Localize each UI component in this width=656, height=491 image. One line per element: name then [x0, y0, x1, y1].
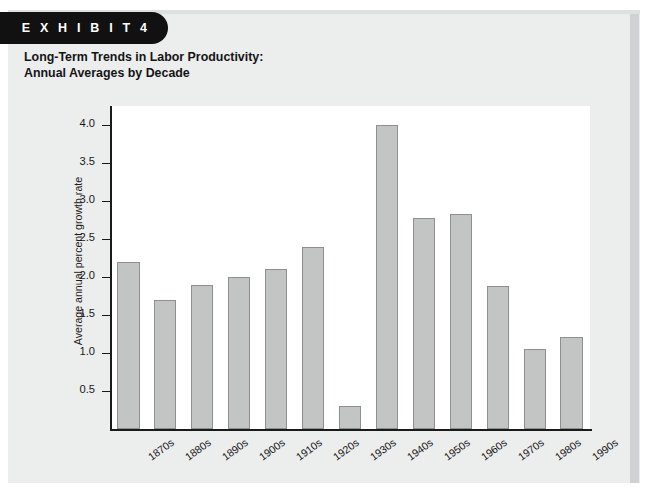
y-axis-tick-label: 2.0 [79, 269, 102, 281]
exhibit-banner: E X H I B I T 4 [0, 12, 168, 44]
y-axis-tick-label: 0.5 [79, 383, 102, 395]
x-axis-label-1990s: 1990s [589, 436, 619, 463]
y-axis-tick-label: 3.5 [79, 155, 102, 167]
y-axis-line [110, 106, 112, 430]
y-axis-tick: 1.0 [102, 353, 110, 354]
x-axis-label-1960s: 1960s [478, 436, 508, 463]
x-axis-label-1920s: 1920s [331, 436, 361, 463]
y-axis-tick: 2.0 [102, 277, 110, 278]
bar-1990s [560, 337, 582, 429]
exhibit-banner-label: E X H I B I T 4 [18, 21, 151, 35]
x-axis-label-1970s: 1970s [515, 436, 545, 463]
y-axis-tick: 0.5 [102, 391, 110, 392]
plot-background [110, 106, 590, 429]
bar-1960s [450, 214, 472, 429]
page-title: Long-Term Trends in Labor Productivity: … [24, 50, 584, 81]
bar-1930s [339, 406, 361, 429]
y-axis-tick-label: 2.5 [79, 231, 102, 243]
x-axis-label-1880s: 1880s [183, 436, 213, 463]
bar-1880s [154, 300, 176, 429]
x-axis-label-1950s: 1950s [441, 436, 471, 463]
bar-1900s [228, 277, 250, 429]
bar-1950s [413, 218, 435, 429]
x-axis-label-1930s: 1930s [368, 436, 398, 463]
y-axis-tick: 4.0 [102, 125, 110, 126]
bar-chart: Average annual percent growth rate 0.51.… [20, 95, 616, 475]
y-axis-tick: 2.5 [102, 239, 110, 240]
x-axis-label-1940s: 1940s [404, 436, 434, 463]
bar-1890s [191, 285, 213, 429]
bar-1940s [376, 125, 398, 429]
y-axis-tick-label: 1.5 [79, 307, 102, 319]
page-title-line1: Long-Term Trends in Labor Productivity: [24, 50, 263, 64]
y-axis-tick: 1.5 [102, 315, 110, 316]
x-axis-line [110, 429, 592, 431]
y-axis-tick: 3.5 [102, 163, 110, 164]
x-axis-label-1890s: 1890s [220, 436, 250, 463]
x-axis-label-1980s: 1980s [552, 436, 582, 463]
y-axis-tick-label: 1.0 [79, 345, 102, 357]
x-axis-label-1900s: 1900s [257, 436, 287, 463]
x-axis-label-1910s: 1910s [294, 436, 324, 463]
card-right-edge [630, 10, 639, 483]
y-axis-tick-label: 3.0 [79, 193, 102, 205]
x-axis-label-1870s: 1870s [146, 436, 176, 463]
bar-1870s [117, 262, 139, 429]
bar-1980s [524, 349, 546, 429]
y-axis-tick: 3.0 [102, 201, 110, 202]
bar-1910s [265, 269, 287, 429]
page-title-line2: Annual Averages by Decade [24, 66, 584, 82]
bar-1920s [302, 247, 324, 429]
bar-1970s [487, 286, 509, 429]
y-axis-tick-label: 4.0 [79, 117, 102, 129]
